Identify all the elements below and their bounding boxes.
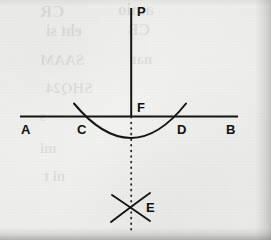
label-F: F bbox=[137, 101, 145, 114]
figure-page: CR amio eht si CB SAAM nar SHQ24 s mi ni… bbox=[0, 0, 271, 240]
label-D: D bbox=[177, 123, 186, 136]
label-B: B bbox=[226, 123, 235, 136]
label-P: P bbox=[137, 5, 146, 18]
label-A: A bbox=[21, 123, 30, 136]
label-C: C bbox=[77, 123, 86, 136]
geometry-drawing bbox=[0, 0, 271, 240]
arc-CD bbox=[74, 104, 186, 139]
label-E: E bbox=[146, 201, 155, 214]
